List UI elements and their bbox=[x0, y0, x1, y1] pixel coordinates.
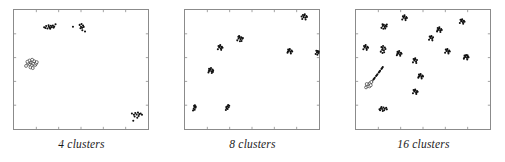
caption-8-clusters: 8 clusters bbox=[171, 138, 334, 150]
data-points-16-clusters bbox=[362, 14, 469, 112]
caption-4-clusters: 4 clusters bbox=[0, 138, 163, 150]
axis-ticks-16-clusters bbox=[356, 10, 490, 129]
panel-8-clusters: 8 clusters bbox=[171, 0, 334, 162]
data-points-4-clusters bbox=[25, 23, 143, 122]
plot-frame-16-clusters bbox=[355, 9, 491, 130]
scatter-plot-4-clusters bbox=[14, 10, 148, 129]
scatter-plot-16-clusters bbox=[356, 10, 490, 129]
plot-frame-4-clusters bbox=[13, 9, 149, 130]
panel-16-clusters: 16 clusters bbox=[342, 0, 505, 162]
plot-frame-8-clusters bbox=[184, 9, 320, 130]
panel-4-clusters: 4 clusters bbox=[0, 0, 163, 162]
cluster-figure: 4 clusters 8 clusters 16 clusters bbox=[0, 0, 505, 162]
scatter-plot-8-clusters bbox=[185, 10, 319, 129]
axis-ticks-8-clusters bbox=[185, 10, 319, 129]
data-points-8-clusters bbox=[192, 13, 320, 111]
caption-16-clusters: 16 clusters bbox=[342, 138, 505, 150]
